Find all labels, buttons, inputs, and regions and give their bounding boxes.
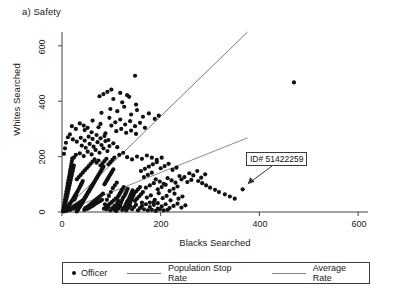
annotation-label-id: ID# 51422259 (246, 152, 307, 166)
population-stop-rate-line-icon (127, 273, 161, 274)
legend-label-average-rate: Average Rate (313, 263, 367, 283)
legend-item-officer: Officer (63, 268, 109, 278)
legend-item-population-stop-rate: Population Stop Rate (109, 263, 254, 283)
legend-item-average-rate: Average Rate (254, 263, 369, 283)
axis-lines (58, 32, 368, 216)
annotation-arrow (248, 166, 272, 184)
chart-legend: Officer Population Stop Rate Average Rat… (62, 262, 370, 284)
officer-marker-icon (72, 271, 76, 275)
scatter-plot-canvas (0, 0, 394, 296)
legend-label-officer: Officer (81, 268, 107, 278)
officer-data-points (61, 74, 296, 214)
figure-panel: a) Safety Whites Searched Blacks Searche… (0, 0, 394, 296)
legend-label-population-stop-rate: Population Stop Rate (168, 263, 252, 283)
average-rate-line-icon (272, 273, 306, 274)
